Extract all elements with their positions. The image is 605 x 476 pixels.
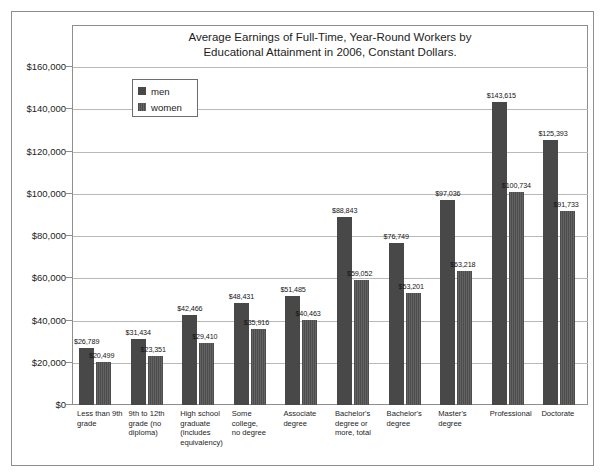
chart-screenshot: $160,000$140,000$120,000$100,000$80,000$…: [0, 0, 605, 476]
legend-item-women: women: [138, 99, 197, 115]
y-tick-label: $0: [55, 399, 66, 410]
x-category-label: Bachelor'sdegree ormore, total: [335, 409, 383, 438]
bar-group: $143,615$100,734: [492, 25, 537, 405]
bar-value-label: $23,351: [141, 345, 166, 354]
bar-value-label: $31,434: [126, 328, 151, 337]
bar-value-label: $51,485: [280, 285, 305, 294]
x-category-label: Master'sdegree: [438, 409, 486, 428]
bar-value-label: $97,036: [435, 189, 460, 198]
x-axis-category-labels: Less than 9thgrade9th to 12thgrade (nodi…: [72, 409, 588, 471]
bar-group: $88,843$59,052: [337, 25, 382, 405]
x-category-label: 9th to 12thgrade (nodiploma): [129, 409, 177, 438]
bar-women[interactable]: [199, 343, 214, 405]
bar-group: $51,485$40,463: [285, 25, 330, 405]
bar-men[interactable]: [389, 243, 404, 405]
bar-group: $48,431$35,916: [234, 25, 279, 405]
bar-value-label: $76,749: [384, 232, 409, 241]
y-tick-label: $80,000: [32, 230, 66, 241]
y-tick-label: $100,000: [26, 187, 66, 198]
bar-women[interactable]: [96, 362, 111, 405]
bar-value-label: $59,052: [347, 269, 372, 278]
bar-value-label: $35,916: [244, 318, 269, 327]
bar-value-label: $40,463: [295, 309, 320, 318]
legend-swatch-women-icon: [138, 103, 146, 111]
x-category-label: Bachelor'sdegree: [387, 409, 435, 428]
bar-value-label: $48,431: [229, 292, 254, 301]
bar-women[interactable]: [302, 320, 317, 405]
bar-women[interactable]: [457, 271, 472, 405]
y-tick-label: $20,000: [32, 356, 66, 367]
bar-women[interactable]: [560, 211, 575, 405]
y-tick-label: $40,000: [32, 314, 66, 325]
x-category-label: Less than 9thgrade: [77, 409, 125, 428]
bar-group: $76,749$53,201: [389, 25, 434, 405]
bar-women[interactable]: [148, 356, 163, 405]
x-category-label: High schoolgraduate(includesequivalency): [180, 409, 228, 447]
bar-group: $97,036$63,218: [440, 25, 485, 405]
bar-men[interactable]: [492, 102, 507, 405]
y-tick-label: $140,000: [26, 103, 66, 114]
legend: men women: [132, 79, 198, 117]
bar-value-label: $26,789: [74, 337, 99, 346]
y-tick-label: $120,000: [26, 145, 66, 156]
bar-value-label: $63,218: [450, 260, 475, 269]
y-tick-label: $160,000: [26, 61, 66, 72]
bar-value-label: $42,466: [177, 304, 202, 313]
bar-value-label: $91,733: [553, 200, 578, 209]
bar-men[interactable]: [440, 200, 455, 405]
legend-item-men: men: [138, 83, 197, 99]
y-tick-label: $60,000: [32, 272, 66, 283]
legend-swatch-men-icon: [138, 87, 146, 95]
bar-women[interactable]: [354, 280, 369, 405]
x-category-label: Some college,no degree: [232, 409, 280, 438]
x-category-label: Associatedegree: [283, 409, 331, 428]
bar-women[interactable]: [509, 192, 524, 405]
bar-value-label: $125,393: [538, 129, 567, 138]
y-axis: $160,000$140,000$120,000$100,000$80,000$…: [0, 0, 66, 476]
bar-value-label: $143,615: [487, 91, 516, 100]
bar-women[interactable]: [251, 329, 266, 405]
bar-value-label: $88,843: [332, 206, 357, 215]
bar-group: $125,393$91,733: [543, 25, 588, 405]
x-category-label: Doctorate: [541, 409, 589, 419]
bar-men[interactable]: [543, 140, 558, 405]
legend-label-men: men: [151, 86, 170, 97]
bar-men[interactable]: [337, 217, 352, 405]
bar-women[interactable]: [406, 293, 421, 405]
legend-label-women: women: [151, 102, 182, 113]
bar-value-label: $100,734: [502, 181, 531, 190]
bar-value-label: $29,410: [192, 332, 217, 341]
bar-group: $26,789$20,499: [79, 25, 124, 405]
bar-value-label: $20,499: [89, 351, 114, 360]
bar-value-label: $53,201: [399, 282, 424, 291]
bar-men[interactable]: [182, 315, 197, 405]
x-category-label: Professional: [490, 409, 538, 419]
